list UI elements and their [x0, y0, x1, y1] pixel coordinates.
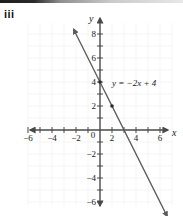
- y-tick-label: −6: [78, 197, 96, 207]
- y-tick-label: 4: [84, 77, 96, 87]
- x-tick-label: 4: [128, 133, 144, 143]
- x-tick-label: −4: [42, 133, 62, 143]
- marked-point: [98, 80, 102, 84]
- x-tick-label: −6: [18, 133, 38, 143]
- y-tick-label: 8: [84, 29, 96, 39]
- y-axis-label: y: [89, 13, 93, 24]
- x-tick-label: 2: [104, 133, 120, 143]
- x-axis-label: x: [172, 127, 176, 138]
- origin-label: 0: [88, 130, 98, 140]
- y-tick-label: −4: [78, 173, 96, 183]
- x-tick-label: −2: [66, 133, 86, 143]
- y-tick-label: −2: [78, 149, 96, 159]
- equation-annotation: y = −2x + 4: [112, 78, 156, 88]
- marked-point: [110, 104, 114, 108]
- x-tick-label: 6: [152, 133, 168, 143]
- y-tick-label: 2: [84, 101, 96, 111]
- y-tick-label: 6: [84, 53, 96, 63]
